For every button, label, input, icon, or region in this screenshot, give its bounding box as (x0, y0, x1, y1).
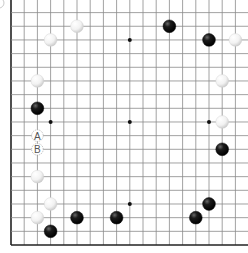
white-stone (31, 211, 44, 224)
black-stone (203, 198, 216, 211)
star-point (128, 202, 132, 206)
go-board-diagram: AB (0, 0, 248, 253)
black-stone (31, 102, 44, 115)
black-stone (189, 211, 202, 224)
black-stone (203, 34, 216, 47)
white-stone (229, 34, 242, 47)
label-marker-text: A (34, 131, 41, 142)
white-stone (216, 75, 229, 88)
white-stone (31, 170, 44, 183)
black-stone (44, 225, 57, 238)
star-point (128, 38, 132, 42)
go-board: AB (0, 0, 248, 253)
star-point (128, 120, 132, 124)
black-stone (71, 211, 84, 224)
white-stone (216, 116, 229, 129)
white-stone (44, 198, 57, 211)
star-point (207, 120, 211, 124)
cropped-marker (0, 0, 4, 8)
black-stone (216, 143, 229, 156)
label-marker-text: B (34, 144, 41, 155)
stones (31, 20, 242, 238)
star-point (49, 120, 53, 124)
white-stone (44, 34, 57, 47)
black-stone (110, 211, 123, 224)
white-stone (71, 20, 84, 33)
black-stone (163, 20, 176, 33)
white-stone (31, 75, 44, 88)
